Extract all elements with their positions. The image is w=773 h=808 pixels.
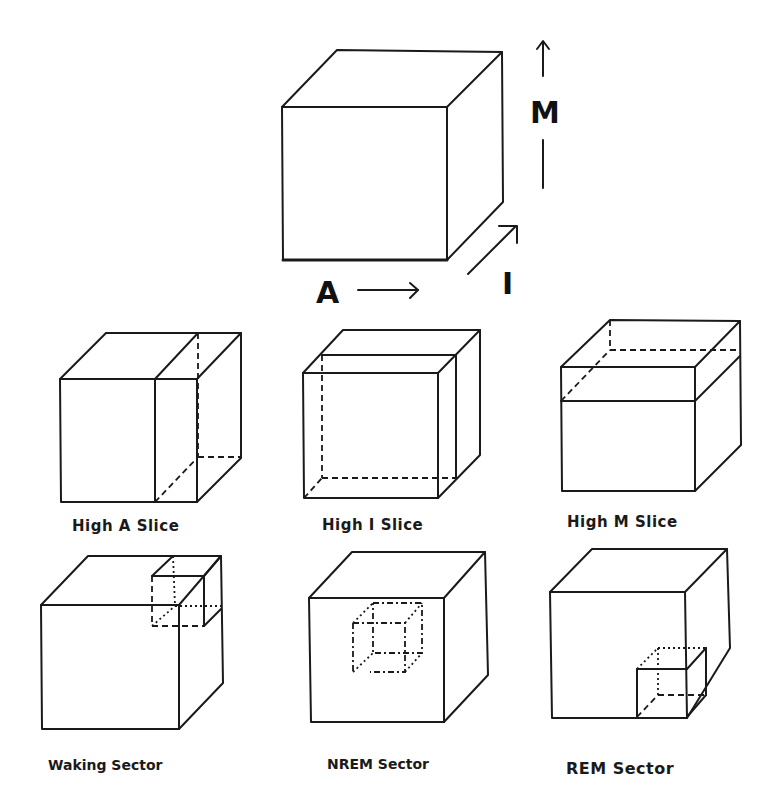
axis-a-label: A — [316, 275, 340, 310]
rem-sector-label: REM Sector — [566, 759, 674, 778]
waking-sector-label: Waking Sector — [48, 757, 163, 773]
axis-i: I — [468, 226, 517, 301]
axis-a: A — [316, 275, 418, 310]
high-m-slice-label: High M Slice — [567, 513, 678, 531]
axis-i-label: I — [502, 266, 513, 301]
main-cube — [282, 50, 503, 260]
axis-m: M — [530, 41, 560, 188]
state-space-diagram: M A I High A Slice High I Slice — [0, 0, 773, 808]
axis-m-label: M — [530, 95, 560, 130]
high-i-slice-label: High I Slice — [322, 516, 423, 534]
high-m-slice-cube — [561, 320, 741, 491]
rem-sector-cube — [550, 549, 730, 718]
nrem-sector-label: NREM Sector — [327, 756, 429, 772]
high-i-slice-cube — [303, 330, 480, 498]
nrem-sector-cube — [309, 552, 488, 722]
waking-sector-cube — [41, 556, 223, 729]
high-a-slice-label: High A Slice — [72, 517, 179, 535]
high-a-slice-cube — [60, 333, 241, 502]
